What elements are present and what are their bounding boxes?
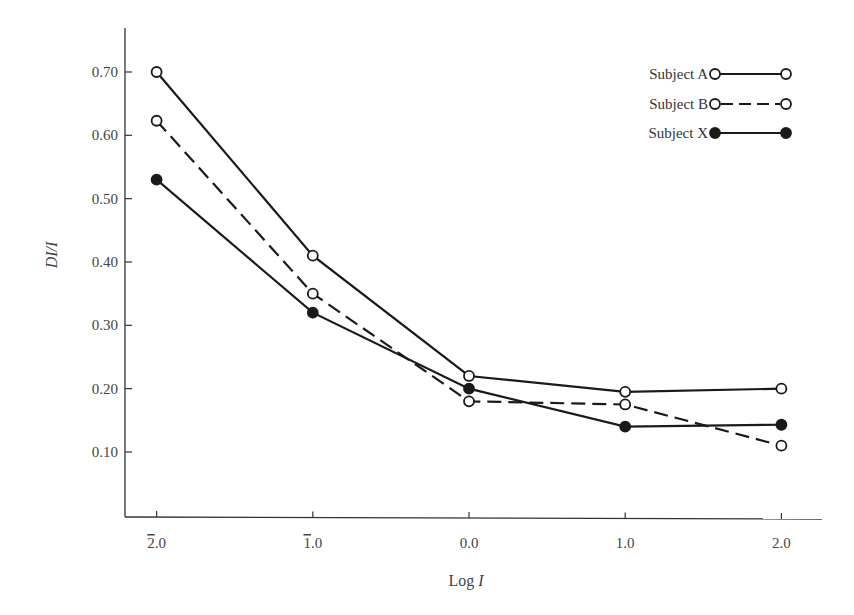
y-tick-label: 0.60 [92,127,118,143]
legend-label: Subject A [649,66,708,82]
legend-label: Subject B [649,96,708,112]
open-circle-marker [781,99,791,109]
legend-label: Subject X [648,125,708,141]
filled-circle-marker [776,420,786,430]
open-circle-marker [620,387,630,397]
open-circle-marker [152,116,162,126]
x-tick-label: 1.0 [303,535,322,551]
y-ticks: 0.100.200.300.400.500.600.70 [92,64,132,460]
series-subject-b [152,116,787,451]
y-tick-label: 0.70 [92,64,118,80]
filled-circle-marker [464,384,474,394]
y-tick-label: 0.50 [92,191,118,207]
x-axis-title: Log I [448,572,484,590]
open-circle-marker [308,289,318,299]
line-chart: 0.100.200.300.400.500.600.70 2.01.00.01.… [0,0,854,615]
open-circle-marker [152,67,162,77]
filled-circle-marker [152,175,162,185]
filled-circle-marker [710,128,720,138]
legend-item: Subject A [649,66,791,82]
open-circle-marker [464,396,474,406]
legend: Subject ASubject BSubject X [648,66,791,141]
series-subject-x [152,175,787,432]
open-circle-marker [710,69,720,79]
series-line [157,72,782,392]
series-subject-a [152,67,787,397]
y-tick-label: 0.10 [92,444,118,460]
y-tick-label: 0.30 [92,317,118,333]
open-circle-marker [781,69,791,79]
y-tick-label: 0.40 [92,254,118,270]
x-tick-label: 1.0 [616,535,635,551]
open-circle-marker [620,399,630,409]
filled-circle-marker [620,422,630,432]
filled-circle-marker [308,308,318,318]
x-axis [125,517,822,519]
y-tick-label: 0.20 [92,381,118,397]
filled-circle-marker [781,128,791,138]
open-circle-marker [308,251,318,261]
open-circle-marker [776,441,786,451]
open-circle-marker [710,99,720,109]
x-tick-label: 2.0 [147,535,166,551]
x-tick-label: 0.0 [460,535,479,551]
y-axis-title: DI/I [43,241,60,269]
legend-item: Subject X [648,125,791,141]
open-circle-marker [776,384,786,394]
x-tick-label: 2.0 [772,535,791,551]
legend-item: Subject B [649,96,791,112]
open-circle-marker [464,371,474,381]
